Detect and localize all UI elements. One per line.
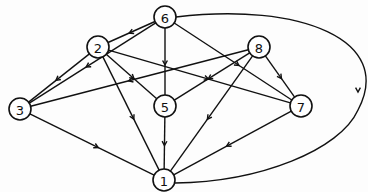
- arrowhead-icon: [356, 88, 361, 92]
- edge-6-to-5: [163, 28, 168, 95]
- edge-8-to-3: [31, 50, 249, 106]
- directed-graph: 6283571: [0, 0, 368, 192]
- edge-8-to-7: [265, 56, 294, 97]
- node-5: 5: [154, 95, 176, 117]
- edge-2-to-3: [29, 54, 90, 102]
- node-8: 8: [248, 36, 270, 58]
- node-label: 8: [255, 41, 263, 56]
- edges-layer: [29, 14, 366, 183]
- edge-6-to-3: [29, 23, 155, 103]
- node-2: 2: [87, 36, 109, 58]
- nodes-layer: 6283571: [9, 6, 312, 191]
- node-label: 1: [160, 174, 168, 189]
- node-label: 6: [161, 11, 169, 26]
- node-label: 5: [161, 100, 169, 115]
- node-6: 6: [154, 6, 176, 28]
- node-label: 2: [94, 41, 102, 56]
- edge-6-to-2: [108, 21, 155, 42]
- edge-7-to-1: [174, 111, 292, 175]
- node-3: 3: [9, 98, 31, 120]
- node-7: 7: [290, 95, 312, 117]
- edge-2-to-1: [103, 57, 159, 170]
- node-1: 1: [153, 169, 175, 191]
- edge-5-to-1: [162, 117, 167, 169]
- edge-6-to-1: [175, 14, 366, 183]
- edge-2-to-5: [106, 54, 156, 98]
- node-label: 7: [297, 100, 305, 115]
- node-label: 3: [16, 103, 24, 118]
